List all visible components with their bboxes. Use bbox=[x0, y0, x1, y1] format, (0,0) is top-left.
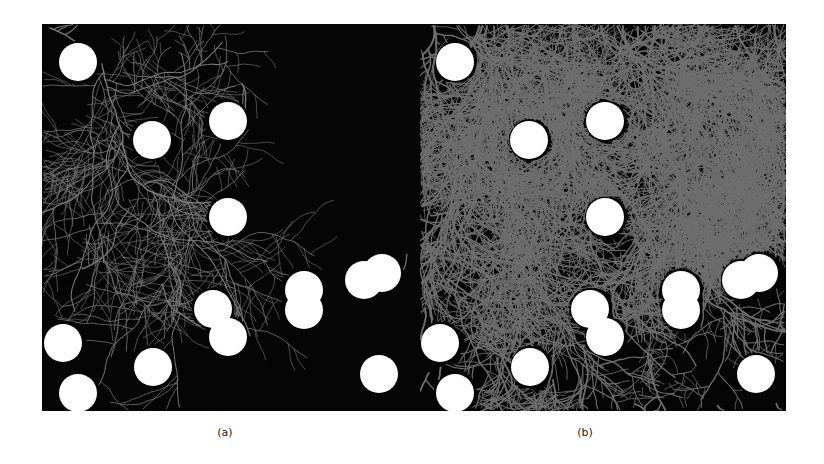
obstacle-circle bbox=[134, 348, 172, 386]
panel-b-dense-dendrites bbox=[420, 24, 786, 411]
panel-b-caption: (b) bbox=[565, 426, 605, 439]
panel-a-sparse-dendrites bbox=[42, 24, 420, 411]
obstacle-circle bbox=[59, 43, 97, 81]
obstacle-circle bbox=[586, 198, 624, 236]
obstacle-circle bbox=[436, 374, 474, 411]
obstacle-circle bbox=[740, 254, 778, 292]
obstacle-circle bbox=[133, 121, 171, 159]
obstacle-circle bbox=[510, 121, 548, 159]
obstacle-circle bbox=[586, 102, 624, 140]
obstacle-circle bbox=[363, 254, 401, 292]
obstacle-circle bbox=[360, 355, 398, 393]
dendrite-simulation-image bbox=[420, 24, 786, 411]
obstacle-circle bbox=[209, 318, 247, 356]
obstacle-circle bbox=[59, 374, 97, 411]
panel-a-caption: (a) bbox=[205, 426, 245, 439]
obstacle-circle bbox=[209, 102, 247, 140]
obstacle-circle bbox=[436, 43, 474, 81]
obstacle-circle bbox=[737, 355, 775, 393]
obstacle-circle bbox=[586, 318, 624, 356]
obstacle-circle bbox=[662, 291, 700, 329]
obstacle-circle bbox=[285, 291, 323, 329]
figure: (a) (b) bbox=[0, 0, 824, 464]
dendrite-simulation-image bbox=[42, 24, 420, 411]
obstacle-circle bbox=[209, 198, 247, 236]
obstacle-circle bbox=[421, 324, 459, 362]
obstacle-circle bbox=[511, 348, 549, 386]
obstacle-circle bbox=[44, 324, 82, 362]
